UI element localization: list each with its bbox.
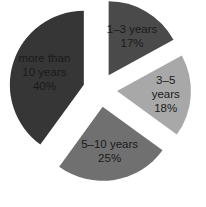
- slice-category: 3–5: [156, 74, 175, 86]
- slice-category: 10 years: [22, 66, 66, 78]
- pie-chart: 1–3 years17%3–5years18%5–10 years25%more…: [0, 0, 206, 207]
- slice-percent: 17%: [120, 37, 143, 49]
- slice-category: 5–10 years: [81, 138, 138, 150]
- slice-category: more than: [19, 52, 71, 64]
- slice-category: 1–3 years: [107, 23, 158, 35]
- slice-category: years: [152, 88, 180, 100]
- slice-percent: 25%: [98, 152, 121, 164]
- slice-percent: 40%: [33, 80, 56, 92]
- slice-percent: 18%: [154, 102, 177, 114]
